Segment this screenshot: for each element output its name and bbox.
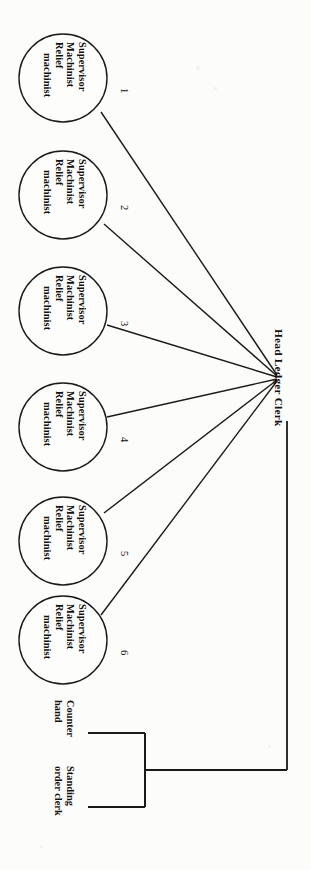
node-2-line-1: Supervisor <box>76 159 88 214</box>
connector-node-3 <box>107 325 277 377</box>
node-6-line-1: Supervisor <box>76 604 88 659</box>
scan-speck <box>196 66 200 70</box>
scan-speck <box>268 745 271 748</box>
connector-node-4 <box>107 379 277 417</box>
node-1-line-2: Machinist <box>65 42 77 97</box>
diagram-canvas: Supervisor Machinist Relief machinist 1 … <box>0 0 311 870</box>
leaf-label-standing-order-clerk[interactable]: Standing order clerk <box>52 766 76 816</box>
node-2-line-4: machinist <box>41 170 53 214</box>
scan-speck <box>214 87 217 90</box>
node-3-line-4: machinist <box>41 286 53 330</box>
node-number-5: 5 <box>118 551 130 556</box>
node-label-6: Supervisor Machinist Relief machinist <box>41 604 88 659</box>
connector-group <box>101 112 277 615</box>
node-circle-group <box>19 34 107 684</box>
node-3-line-3: Relief <box>53 275 65 330</box>
node-label-1: Supervisor Machinist Relief machinist <box>41 42 88 97</box>
node-2-line-2: Machinist <box>65 159 77 214</box>
node-4-line-1: Supervisor <box>76 391 88 446</box>
node-label-3: Supervisor Machinist Relief machinist <box>41 275 88 330</box>
hub-label-head-ledger-clerk[interactable]: Head Ledger Clerk <box>272 329 285 426</box>
node-6-line-3: Relief <box>53 604 65 659</box>
node-1-line-4: machinist <box>41 53 53 97</box>
node-4-line-2: Machinist <box>65 391 77 446</box>
counter-hand-line-2: hand <box>52 700 64 737</box>
leaf-label-counter-hand[interactable]: Counter hand <box>52 700 76 737</box>
node-4-line-4: machinist <box>41 402 53 446</box>
node-label-5: Supervisor Machinist Relief machinist <box>41 505 88 560</box>
node-2-line-3: Relief <box>53 159 65 214</box>
node-number-2: 2 <box>118 205 130 210</box>
node-3-line-2: Machinist <box>65 275 77 330</box>
connector-node-1 <box>101 112 277 375</box>
scan-speck <box>40 845 43 848</box>
standing-order-clerk-line-2: order clerk <box>52 766 64 816</box>
node-5-line-1: Supervisor <box>76 505 88 560</box>
node-5-line-3: Relief <box>53 505 65 560</box>
node-1-line-1: Supervisor <box>76 42 88 97</box>
node-number-3: 3 <box>118 321 130 326</box>
node-label-4: Supervisor Machinist Relief machinist <box>41 391 88 446</box>
node-1-line-3: Relief <box>53 42 65 97</box>
node-number-1: 1 <box>118 88 130 93</box>
node-number-4: 4 <box>118 437 130 442</box>
trunk-group <box>146 421 287 770</box>
node-5-line-2: Machinist <box>65 505 77 560</box>
counter-hand-line-1: Counter <box>64 700 76 737</box>
bracket-group <box>88 733 145 807</box>
node-4-line-3: Relief <box>53 391 65 446</box>
standing-order-clerk-line-1: Standing <box>64 766 76 816</box>
node-3-line-1: Supervisor <box>76 275 88 330</box>
connector-node-6 <box>101 381 277 615</box>
connector-node-5 <box>104 380 277 513</box>
node-label-2: Supervisor Machinist Relief machinist <box>41 159 88 214</box>
node-number-6: 6 <box>118 650 130 655</box>
node-5-line-4: machinist <box>41 516 53 560</box>
node-6-line-4: machinist <box>41 615 53 659</box>
node-6-line-2: Machinist <box>65 604 77 659</box>
